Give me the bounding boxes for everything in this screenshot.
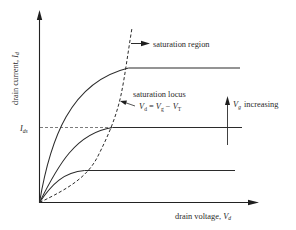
ids-tick-label: Ids — [19, 124, 28, 134]
locus-pointer-arrow — [120, 101, 135, 107]
saturation-region-label: saturation region — [153, 40, 210, 49]
curve-high-vg — [40, 68, 241, 203]
vg-increasing-arrow — [225, 96, 230, 145]
saturation-locus-equation: Vd = Vg − VT — [139, 102, 182, 112]
right-arrow-icon — [141, 41, 150, 46]
saturation-region-arrow — [131, 41, 150, 46]
vg-increasing-label: Vgincreasing — [233, 100, 279, 110]
y-axis-arrow-icon — [37, 10, 42, 20]
left-arrow-icon — [120, 101, 127, 106]
mosfet-characteristics-diagram: drain current, Id drain voltage, Vd Ids … — [0, 0, 296, 230]
y-axis — [37, 10, 42, 203]
y-axis-label: drain current, Id — [11, 52, 21, 105]
x-axis-arrow-icon — [248, 200, 259, 205]
curve-mid-vg — [40, 128, 243, 203]
saturation-locus-label: saturation locus — [133, 90, 186, 99]
x-axis-label: drain voltage, Vd — [175, 212, 231, 222]
x-axis — [39, 200, 259, 205]
up-arrow-icon — [225, 96, 230, 105]
